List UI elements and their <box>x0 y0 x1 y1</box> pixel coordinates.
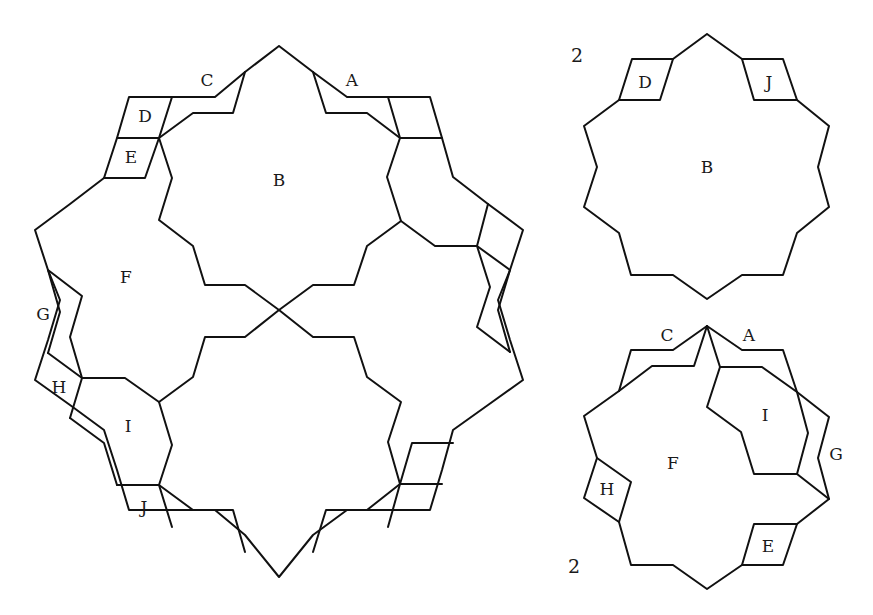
label-d-copy: D <box>638 72 652 92</box>
piece-j-right <box>159 485 172 527</box>
label-b: B <box>273 170 286 190</box>
label-f-copy: F <box>667 453 679 473</box>
label-h-copy: H <box>600 479 615 499</box>
piece-lower-right-arm <box>279 310 401 484</box>
label-a: A <box>345 70 359 90</box>
label-i-copy: I <box>762 405 769 425</box>
piece-lower-left-arm <box>159 310 279 402</box>
label-i: I <box>125 416 132 436</box>
piece-bottom-right-inner <box>313 484 400 552</box>
piece-b-right <box>387 138 477 246</box>
label-e-copy: E <box>762 536 774 556</box>
top-right-figure: 2 D J B <box>571 34 829 299</box>
label-f: F <box>120 267 132 287</box>
bottom-right-outline <box>584 326 829 589</box>
bottom-right-figure: 2 C A I F G H E <box>568 325 843 589</box>
piece-b-left <box>159 138 279 310</box>
count-label-bottom: 2 <box>568 555 580 577</box>
label-e: E <box>125 147 137 167</box>
piece-i-copy <box>707 367 808 474</box>
label-h: H <box>52 377 67 397</box>
square-tr-left <box>388 97 400 138</box>
main-outline <box>35 46 523 577</box>
count-label-top: 2 <box>571 44 583 66</box>
dissection-diagram: C A D E B F G H I J 2 D J B 2 <box>0 0 873 615</box>
label-g: G <box>36 304 50 324</box>
label-d: D <box>138 106 152 126</box>
piece-bottom-left-inner <box>159 485 245 552</box>
label-a-copy: A <box>742 325 756 345</box>
label-j-copy: J <box>764 72 773 92</box>
label-j: J <box>139 497 148 517</box>
main-labels: C A D E B F G H I J <box>36 70 359 517</box>
label-c-copy: C <box>660 325 673 345</box>
main-figure: C A D E B F G H I J <box>35 46 523 577</box>
label-c: C <box>200 70 213 90</box>
piece-b-bottom-right <box>279 221 401 310</box>
label-g-copy: G <box>829 444 843 464</box>
piece-d-right <box>159 97 172 138</box>
piece-right-zig2 <box>498 270 510 352</box>
piece-h-top <box>48 353 82 378</box>
label-b-copy: B <box>701 157 714 177</box>
